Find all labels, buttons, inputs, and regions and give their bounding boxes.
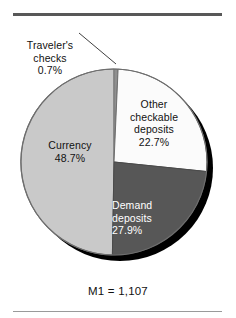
slice-label-travelers-checks-name: Traveler's checks <box>27 39 73 63</box>
slice-label-demand-deposits-pct: 27.9% <box>112 224 192 236</box>
slice-label-travelers-checks: Traveler's checks 0.7% <box>6 27 94 89</box>
chart-caption: M1 = 1,107 <box>0 285 236 297</box>
slice-label-travelers-checks-pct: 0.7% <box>6 64 94 76</box>
slice-label-demand-deposits-name: Demand deposits <box>112 199 152 223</box>
bottom-rule <box>13 311 222 312</box>
slice-label-other-checkable-deposits-name: Other checkable deposits <box>130 98 178 135</box>
slice-label-currency-name: Currency <box>48 139 91 151</box>
slice-label-currency-pct: 48.7% <box>26 152 114 164</box>
pie-chart-figure: Traveler's checks 0.7% Other checkable d… <box>0 0 236 318</box>
slice-label-other-checkable-deposits-pct: 22.7% <box>111 136 197 148</box>
slice-label-currency: Currency 48.7% <box>26 127 114 177</box>
slice-label-demand-deposits: Demand deposits 27.9% <box>112 187 192 249</box>
slice-label-other-checkable-deposits: Other checkable deposits 22.7% <box>111 86 197 160</box>
